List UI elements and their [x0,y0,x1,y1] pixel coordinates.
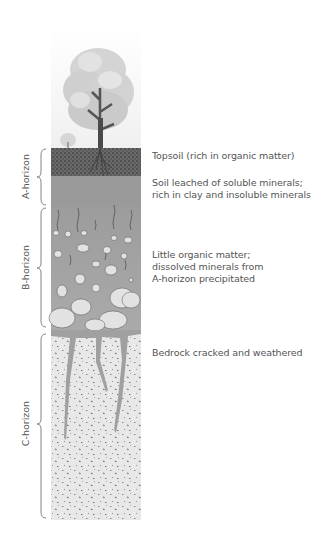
brace-b [37,208,46,327]
horizon-label-b: B-horizon [20,238,31,298]
brace-c [37,334,46,518]
leached-layer [51,176,141,206]
horizon-label-a: A-horizon [20,147,31,207]
horizon-label-c: C-horizon [20,394,31,454]
description-leached: Soil leached of soluble minerals; rich i… [152,177,311,201]
brace-a [37,149,46,205]
description-b-horizon: Little organic matter; dissolved mineral… [152,249,263,285]
horizon-braces [37,149,46,518]
description-topsoil: Topsoil (rich in organic matter) [152,150,294,162]
description-bedrock: Bedrock cracked and weathered [152,347,302,359]
topsoil-layer [51,148,141,176]
